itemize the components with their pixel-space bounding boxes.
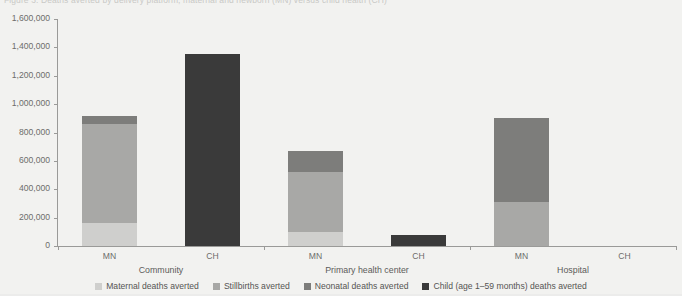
plot-area <box>58 19 676 246</box>
x-axis-group-label: Primary health center <box>277 265 457 275</box>
legend-item-label: Neonatal deaths averted <box>315 281 409 291</box>
bar-segment <box>391 235 446 246</box>
y-axis-tick-label: 1,600,000 <box>12 13 50 24</box>
y-axis-tick: 400,000 <box>0 189 58 190</box>
bar-segment <box>288 232 343 246</box>
legend-item-label: Child (age 1–59 months) deaths averted <box>433 281 586 291</box>
y-axis-tick: 600,000 <box>0 161 58 162</box>
y-axis-tick-label: 600,000 <box>19 155 50 166</box>
x-axis-group-tick <box>470 246 471 250</box>
legend-item[interactable]: Maternal deaths averted <box>95 281 199 291</box>
y-axis-tick-label: 800,000 <box>19 127 50 138</box>
x-axis-bar-label: MN <box>276 251 356 261</box>
legend-item[interactable]: Child (age 1–59 months) deaths averted <box>422 281 586 291</box>
x-axis-bar-label: MN <box>70 251 150 261</box>
x-axis-bar-label: CH <box>173 251 253 261</box>
legend-swatch-icon <box>213 283 220 290</box>
bar-segment <box>82 116 137 124</box>
y-axis-tick: 1,000,000 <box>0 104 58 105</box>
bar-segment <box>288 172 343 232</box>
y-axis-tick-label: 1,000,000 <box>12 98 50 109</box>
x-axis-group-label: Community <box>71 265 251 275</box>
bar-segment <box>288 151 343 172</box>
y-axis-tick-label: 1,200,000 <box>12 70 50 81</box>
y-axis-tick: 1,200,000 <box>0 76 58 77</box>
x-axis-bar-label: MN <box>482 251 562 261</box>
x-axis-group-tick <box>264 246 265 250</box>
y-axis-tick: 0 <box>0 246 58 247</box>
y-axis-tick: 1,400,000 <box>0 47 58 48</box>
bar-segment <box>494 118 549 202</box>
legend-item-label: Stillbirths averted <box>224 281 290 291</box>
legend-swatch-icon <box>95 283 102 290</box>
x-axis-bar-label: CH <box>585 251 665 261</box>
y-axis-tick-label: 400,000 <box>19 183 50 194</box>
bar-primary-health-center-ch <box>391 235 446 246</box>
bar-primary-health-center-mn <box>288 151 343 246</box>
legend-swatch-icon <box>304 283 311 290</box>
bar-hospital-mn <box>494 118 549 246</box>
y-axis-tick: 1,600,000 <box>0 19 58 20</box>
figure-caption-text: Figure 3. Deaths averted by delivery pla… <box>4 0 387 5</box>
legend-item[interactable]: Neonatal deaths averted <box>304 281 409 291</box>
x-axis-group-label: Hospital <box>483 265 663 275</box>
chart-legend: Maternal deaths avertedStillbirths avert… <box>0 279 682 293</box>
bar-segment <box>185 54 240 246</box>
bar-segment <box>494 202 549 246</box>
x-axis-line <box>57 246 676 247</box>
bar-segment <box>82 223 137 246</box>
bar-community-mn <box>82 116 137 246</box>
y-axis-tick-label: 1,400,000 <box>12 41 50 52</box>
y-axis-tick: 200,000 <box>0 218 58 219</box>
y-axis-tick-label: 0 <box>45 240 50 251</box>
y-axis-tick: 800,000 <box>0 133 58 134</box>
figure-caption-clipped: Figure 3. Deaths averted by delivery pla… <box>0 0 682 9</box>
bar-community-ch <box>185 54 240 246</box>
x-axis-group-tick <box>58 246 59 250</box>
legend-item-label: Maternal deaths averted <box>106 281 199 291</box>
y-axis-tick-label: 200,000 <box>19 212 50 223</box>
x-axis-bar-label: CH <box>379 251 459 261</box>
legend-swatch-icon <box>422 283 429 290</box>
chart-figure: Figure 3. Deaths averted by delivery pla… <box>0 0 682 296</box>
legend-item[interactable]: Stillbirths averted <box>213 281 290 291</box>
x-axis-group-tick <box>676 246 677 250</box>
bar-segment <box>82 124 137 223</box>
